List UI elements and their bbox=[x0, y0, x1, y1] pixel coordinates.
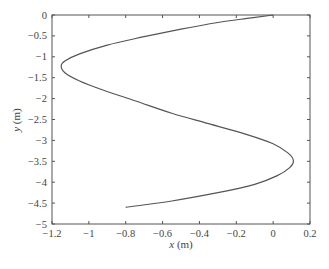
x-tick-label: −0.8 bbox=[116, 228, 135, 239]
x-tick-label: 0.2 bbox=[303, 228, 316, 239]
y-tick-label: −3 bbox=[36, 135, 47, 146]
x-tick-label: −1 bbox=[83, 228, 94, 239]
plot-frame bbox=[52, 15, 310, 224]
y-tick-label: −2 bbox=[36, 93, 47, 104]
y-axis-ticks: 0−0.5−1−1.5−2−2.5−3−3.5−4−4.5−5 bbox=[28, 10, 310, 230]
x-tick-label: 0 bbox=[271, 228, 276, 239]
y-tick-label: −4.5 bbox=[28, 198, 47, 209]
trajectory-chart: −1.2−1−0.8−0.6−0.4−0.200.2 0−0.5−1−1.5−2… bbox=[0, 0, 329, 269]
x-tick-label: −0.2 bbox=[227, 228, 246, 239]
y-tick-label: −5 bbox=[36, 219, 47, 230]
y-tick-label: −4 bbox=[36, 177, 48, 188]
plot-border bbox=[52, 15, 310, 224]
x-axis-ticks: −1.2−1−0.8−0.6−0.4−0.200.2 bbox=[42, 15, 316, 239]
x-tick-label: −1.2 bbox=[42, 228, 61, 239]
x-tick-label: −0.4 bbox=[190, 228, 210, 239]
y-tick-label: −0.5 bbox=[28, 30, 47, 41]
y-tick-label: −3.5 bbox=[28, 156, 47, 167]
y-axis-label: y (m) bbox=[10, 108, 23, 133]
x-axis-label: x (m) bbox=[168, 238, 193, 251]
y-tick-label: −1.5 bbox=[28, 72, 47, 83]
y-tick-label: −2.5 bbox=[28, 114, 47, 125]
y-tick-label: −1 bbox=[36, 51, 47, 62]
data-series bbox=[61, 15, 293, 207]
y-tick-label: 0 bbox=[42, 10, 47, 21]
trajectory-line bbox=[61, 15, 293, 207]
